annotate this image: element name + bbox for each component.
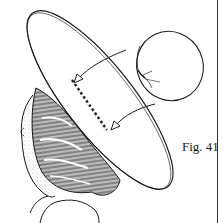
figure-canvas: Fig. 41 xyxy=(0,0,223,223)
figure-caption: Fig. 41 xyxy=(182,139,219,155)
hat-illustration xyxy=(0,0,223,223)
page-border xyxy=(217,0,218,223)
